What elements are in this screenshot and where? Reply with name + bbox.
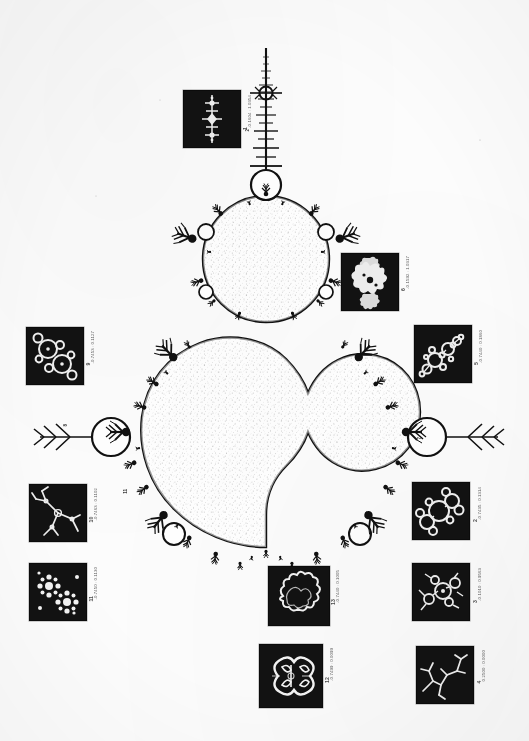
inset-panel-11[interactable] (29, 563, 87, 621)
inset-label-6: 6 -0.1592 : 1.0317 (401, 256, 411, 291)
inset-panel-9[interactable] (26, 327, 84, 385)
inset-panel-13[interactable] (268, 566, 330, 626)
detail-image-bead-chain (415, 326, 471, 382)
inset-panel-1[interactable] (183, 90, 241, 148)
inset-panel-4[interactable] (416, 646, 474, 704)
inset-coord-5: -0.7440 : 0.1860 (479, 330, 483, 363)
detail-image-twin-bulbs (413, 564, 469, 620)
inset-coord-12: -0.7499 : 0.0099 (330, 648, 334, 681)
inset-coord-6: -0.1592 : 1.0317 (406, 256, 410, 289)
inset-label-3: 3 -0.1010 : 0.9563 (473, 568, 483, 603)
inset-coord-10: -0.7463 : 0.1102 (94, 488, 98, 521)
inset-coord-9: -0.7453 : 0.1127 (91, 331, 95, 364)
inset-panel-10[interactable] (29, 484, 87, 542)
detail-image-vertical-chain (184, 91, 240, 147)
detail-image-cloud-lobe (269, 567, 329, 625)
inset-label-2: 2 -0.7435 : 0.1314 (473, 487, 483, 522)
figure-marker-2: 2 (245, 129, 250, 132)
inset-coord-3: -0.1010 : 0.9563 (478, 568, 482, 601)
inset-coord-1: -0.1604 : 1.0354 (248, 95, 252, 128)
inset-panel-6[interactable] (341, 253, 399, 311)
inset-panel-2[interactable] (412, 482, 470, 540)
inset-coord-13: -0.7440 : 0.1005 (336, 570, 340, 603)
detail-image-four-lobe-cross (342, 254, 398, 310)
detail-image-double-scroll (260, 645, 322, 707)
inset-panel-12[interactable] (259, 644, 323, 708)
inset-coord-2: -0.7435 : 0.1314 (478, 487, 482, 520)
figure-marker-11: 11 (123, 489, 128, 494)
inset-label-1: 1 -0.1604 : 1.0354 (243, 95, 253, 130)
inset-label-13: 13 -0.7440 : 0.1005 (331, 570, 341, 605)
figure-marker-8: 8 (63, 424, 68, 427)
detail-image-bulb-cluster (413, 483, 469, 539)
inset-label-9: 9 -0.7453 : 0.1127 (86, 331, 96, 366)
inset-label-11: 11 -0.7450 : 0.1130 (89, 567, 99, 602)
detail-image-thin-dendrite (417, 647, 473, 703)
scanned-page: 1 -0.1604 : 1.0354 6 -0.1592 : 1.0317 (0, 0, 529, 741)
satellite-mini-set (250, 81, 282, 105)
inset-coord-4: 0.2500 : 0.0000 (482, 650, 486, 681)
main-cardioid (141, 338, 420, 547)
inset-label-12: 12 -0.7499 : 0.0099 (325, 648, 335, 683)
inset-coord-11: -0.7450 : 0.1130 (94, 567, 98, 600)
inset-panel-5[interactable] (414, 325, 472, 383)
detail-image-snowflake-pair (30, 564, 86, 620)
inset-label-4: 4 0.2500 : 0.0000 (477, 650, 487, 683)
inset-panel-3[interactable] (412, 563, 470, 621)
detail-image-tri-branch (30, 485, 86, 541)
inset-label-10: 10 -0.7463 : 0.1102 (89, 488, 99, 523)
inset-label-5: 5 -0.7440 : 0.1860 (474, 330, 484, 365)
detail-image-double-bulb (27, 328, 83, 384)
figure-marker-7: 7 (417, 437, 422, 440)
